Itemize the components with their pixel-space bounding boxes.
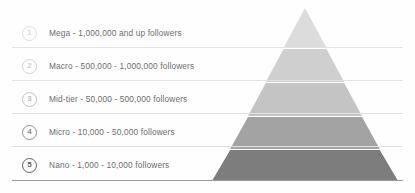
- tier-badge-number: 4: [27, 128, 31, 136]
- tier-list: 1 Mega - 1,000,000 and up followers 2 Ma…: [0, 0, 415, 193]
- tier-badge-number: 3: [27, 95, 31, 103]
- tier-badge-2-icon: 2: [22, 59, 37, 74]
- tier-row-nano[interactable]: 5 Nano - 1,000 - 10,000 followers: [0, 150, 415, 180]
- tier-row-micro[interactable]: 4 Micro - 10,000 - 50,000 followers: [0, 117, 415, 147]
- tier-label-micro: Micro - 10,000 - 50,000 followers: [49, 127, 175, 137]
- tier-row-macro[interactable]: 2 Macro - 500,000 - 1,000,000 followers: [0, 51, 415, 81]
- tier-label-nano: Nano - 1,000 - 10,000 followers: [49, 160, 169, 170]
- tier-label-mid-tier: Mid-tier - 50,000 - 500,000 followers: [49, 94, 187, 104]
- tier-badge-3-icon: 3: [22, 92, 37, 107]
- tier-badge-number: 5: [27, 161, 31, 169]
- tier-row-mid-tier[interactable]: 3 Mid-tier - 50,000 - 500,000 followers: [0, 84, 415, 114]
- tier-badge-number: 1: [27, 29, 31, 37]
- tier-badge-5-icon: 5: [22, 158, 37, 173]
- tier-label-macro: Macro - 500,000 - 1,000,000 followers: [49, 61, 194, 71]
- tier-badge-4-icon: 4: [22, 125, 37, 140]
- pyramid-baseline: [12, 180, 403, 181]
- tier-badge-number: 2: [27, 62, 31, 70]
- influencer-pyramid-infographic: 1 Mega - 1,000,000 and up followers 2 Ma…: [0, 0, 415, 193]
- tier-label-mega: Mega - 1,000,000 and up followers: [49, 28, 182, 38]
- tier-badge-1-icon: 1: [22, 26, 37, 41]
- tier-row-mega[interactable]: 1 Mega - 1,000,000 and up followers: [0, 18, 415, 48]
